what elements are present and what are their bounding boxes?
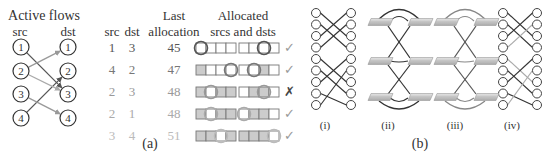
row-src: 2 <box>109 106 116 121</box>
src-node: 1 <box>13 39 29 55</box>
dst-node: 3 <box>60 86 76 102</box>
port-node <box>499 20 508 29</box>
port-node <box>499 43 508 52</box>
last-allocation-header-1: Last <box>163 8 186 23</box>
active-flows-title: Active flows <box>8 8 80 23</box>
link-arc <box>390 98 408 102</box>
sub-label-iv: (iv) <box>504 119 520 132</box>
switch-icon <box>474 94 499 101</box>
port-node <box>533 43 542 52</box>
allocated-dsts <box>238 108 280 121</box>
allocated-slot <box>226 109 236 119</box>
free-slot <box>259 43 269 53</box>
src-node-label: 1 <box>18 41 24 53</box>
switch-icon <box>408 94 433 101</box>
free-slot <box>206 109 216 119</box>
table-dst-header: dst <box>124 24 140 39</box>
row-src: 2 <box>109 84 116 99</box>
sub-label-ii: (ii) <box>381 119 395 132</box>
table-row: 2348✗ <box>109 84 295 99</box>
port-node <box>533 66 542 75</box>
figure-canvas: Active flows src dst 12341234 src dst La… <box>0 0 548 156</box>
table-row: 4247✓ <box>109 62 295 77</box>
dst-header: dst <box>60 24 76 39</box>
link-arc <box>379 101 419 109</box>
diagram-ii <box>368 10 433 110</box>
allocated-slot <box>196 65 206 75</box>
check-icon: ✓ <box>284 128 295 143</box>
check-icon: ✓ <box>284 106 295 121</box>
dst-node-label: 1 <box>65 41 71 53</box>
free-slot <box>249 65 259 75</box>
port-node <box>347 101 356 110</box>
allocated-srcs <box>196 108 236 121</box>
last-allocation-header-2: allocation <box>148 24 200 39</box>
diagram-i <box>312 9 356 110</box>
port-node <box>347 20 356 29</box>
row-last-allocation: 47 <box>168 62 182 77</box>
switch-icon <box>434 19 459 26</box>
port-node <box>499 66 508 75</box>
port-node <box>533 9 542 18</box>
port-node <box>499 9 508 18</box>
panel-a-label: (a) <box>142 136 158 152</box>
dst-node-label: 2 <box>65 65 71 77</box>
port-node <box>499 32 508 41</box>
port-node <box>533 101 542 110</box>
row-last-allocation: 51 <box>168 128 181 143</box>
table-row: 1345✓ <box>109 40 295 55</box>
row-dst: 3 <box>129 84 136 99</box>
figure: Active flows src dst 12341234 src dst La… <box>0 0 548 156</box>
free-slot <box>226 43 236 53</box>
port-node <box>499 78 508 87</box>
free-slot <box>239 43 249 53</box>
sub-label-i: (i) <box>320 119 331 132</box>
port-node <box>347 89 356 98</box>
row-dst: 2 <box>129 62 136 77</box>
dst-node-label: 4 <box>65 112 71 124</box>
switch-icon <box>368 58 393 65</box>
port-node <box>312 9 321 18</box>
allocated-slot <box>226 87 236 97</box>
switch-icon <box>408 19 433 26</box>
src-node-label: 4 <box>18 112 24 124</box>
link-arc <box>456 98 474 102</box>
src-node: 4 <box>13 110 29 126</box>
allocated-dsts <box>239 42 279 55</box>
allocated-slot <box>196 131 206 141</box>
check-icon: ✓ <box>284 40 295 55</box>
link-line <box>508 71 533 94</box>
link-arc <box>445 101 485 109</box>
panel-b <box>312 9 542 110</box>
port-node <box>312 78 321 87</box>
allocated-srcs <box>196 130 236 143</box>
row-dst: 1 <box>129 106 136 121</box>
switch-icon <box>434 58 459 65</box>
cross-icon: ✗ <box>284 84 295 99</box>
free-slot <box>196 43 206 53</box>
allocated-dsts <box>239 130 281 143</box>
allocation-table: 1345✓4247✓2348✗2148✓3451✓ <box>109 40 295 143</box>
panel-b-label: (b) <box>412 136 429 152</box>
row-dst: 3 <box>129 40 136 55</box>
free-slot <box>239 109 249 119</box>
free-slot <box>226 65 236 75</box>
switch-icon <box>474 58 499 65</box>
link-line <box>390 61 408 62</box>
port-node <box>347 9 356 18</box>
sub-label-iii: (iii) <box>447 119 464 132</box>
flow-arrow <box>28 75 60 91</box>
row-last-allocation: 48 <box>168 84 181 99</box>
port-node <box>499 101 508 110</box>
allocated-slot <box>239 131 249 141</box>
src-node-label: 2 <box>18 65 24 77</box>
free-slot <box>216 131 226 141</box>
link-line <box>456 61 474 62</box>
free-slot <box>269 109 279 119</box>
port-node <box>533 32 542 41</box>
allocated-header-2: srcs and dsts <box>210 24 276 39</box>
row-src: 4 <box>109 62 116 77</box>
switch-icon <box>368 94 393 101</box>
switch-icon <box>434 94 459 101</box>
row-src: 3 <box>109 128 116 143</box>
